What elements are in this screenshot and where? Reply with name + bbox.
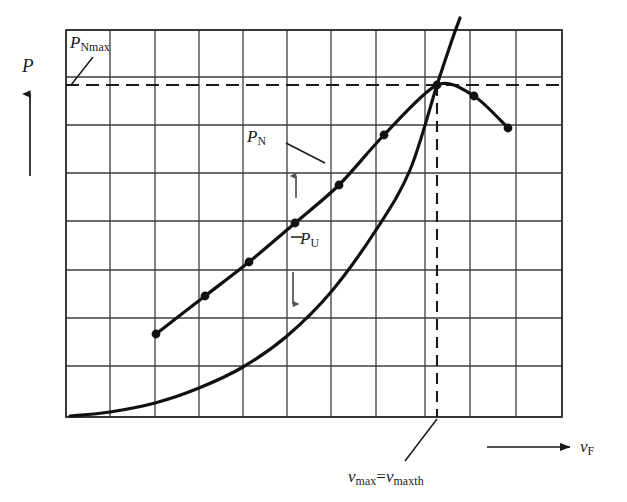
pn-curve-label: PN <box>247 128 266 145</box>
reference-lines <box>66 85 562 417</box>
data-point-marker <box>470 92 479 101</box>
data-point-marker <box>152 330 161 339</box>
pnmax-subscript: Nmax <box>80 40 109 54</box>
data-point-marker <box>433 81 442 90</box>
pu-base: P <box>300 229 310 248</box>
vmax-subscript-2: maxth <box>393 474 423 488</box>
data-point-marker <box>335 181 344 190</box>
pnmax-base: P <box>70 33 80 52</box>
vmax-subscript-1: max <box>356 474 377 488</box>
figure-canvas: P PNmax PN PU vmax=vmaxth vF <box>0 0 627 502</box>
x-axis-subscript: F <box>588 444 595 458</box>
y-axis-label-text: P <box>22 55 34 76</box>
pu-curve-label: PU <box>300 230 319 247</box>
leader-vmax <box>405 419 437 461</box>
leader-pnmax <box>71 57 93 85</box>
grid-lines-vertical <box>66 30 562 417</box>
plot-frame <box>66 30 562 417</box>
curve-pu <box>70 18 460 416</box>
data-point-marker <box>380 131 389 140</box>
data-curves <box>70 18 512 416</box>
pnmax-label: PNmax <box>70 34 110 51</box>
chart-svg <box>0 0 627 502</box>
pu-subscript: U <box>310 236 319 250</box>
data-point-markers <box>152 81 513 339</box>
vmax-label: vmax=vmaxth <box>348 468 424 485</box>
data-point-marker <box>291 219 300 228</box>
vmax-base-1: v <box>348 467 356 486</box>
leader-pn <box>286 143 325 163</box>
pn-subscript: N <box>257 134 266 148</box>
y-axis-label: P <box>22 56 34 75</box>
data-point-marker <box>201 292 210 301</box>
pn-base: P <box>247 127 257 146</box>
grid-lines-horizontal <box>66 30 562 417</box>
x-axis-label: vF <box>580 438 594 455</box>
plot-grid <box>66 30 562 417</box>
vmax-equals: = <box>376 467 386 486</box>
data-point-marker <box>504 124 513 133</box>
data-point-marker <box>245 258 254 267</box>
x-axis-base: v <box>580 437 588 456</box>
